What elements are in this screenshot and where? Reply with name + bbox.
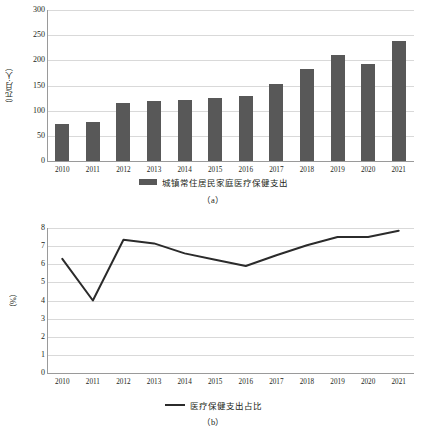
line-series-b <box>0 212 426 403</box>
caption-a: （a） <box>0 193 426 205</box>
y-tick-label: 50 <box>37 132 45 140</box>
y-axis-line <box>47 10 48 162</box>
x-tick-label: 2020 <box>353 166 384 174</box>
x-tick-label: 2015 <box>200 166 231 174</box>
gridline <box>47 10 414 11</box>
figure-page: （元/月·人） 050100150200250300 2010201120122… <box>0 0 426 436</box>
x-tick-label: 2016 <box>231 166 262 174</box>
y-tick-label: 100 <box>33 107 45 115</box>
x-tick-label: 2013 <box>139 166 170 174</box>
y-axis-label-a: （元/月·人） <box>4 10 15 161</box>
x-tick-label: 2014 <box>169 166 200 174</box>
bar <box>269 84 283 161</box>
figure-b-line-chart: （%） 012345678 20102011201220132014201520… <box>0 212 426 436</box>
y-tick-label: 150 <box>33 82 45 90</box>
x-tick-label: 2010 <box>47 166 78 174</box>
x-tick-label: 2019 <box>322 166 353 174</box>
bar <box>392 41 406 161</box>
bar <box>116 103 130 161</box>
legend-label-a: 城镇常住居民家庭医疗保健支出 <box>162 176 288 188</box>
x-tick-label: 2011 <box>78 166 109 174</box>
x-tick-label: 2018 <box>292 378 323 386</box>
y-tick-label: 200 <box>33 56 45 64</box>
x-tick-label: 2014 <box>169 378 200 386</box>
legend-line-swatch-icon <box>165 404 185 406</box>
x-tick-label: 2012 <box>108 166 139 174</box>
gridline <box>47 86 414 87</box>
bar <box>86 122 100 161</box>
x-tick-label: 2019 <box>322 378 353 386</box>
bar <box>331 55 345 161</box>
bar <box>361 64 375 161</box>
bar <box>239 96 253 161</box>
x-tick-label: 2017 <box>261 166 292 174</box>
legend-b: 医疗保健支出占比 <box>0 398 426 411</box>
gridline <box>47 35 414 36</box>
x-tick-label: 2016 <box>231 378 262 386</box>
bar <box>208 98 222 161</box>
x-tick-label: 2020 <box>353 378 384 386</box>
y-axis-ticks-a: 050100150200250300 <box>23 0 45 181</box>
gridline <box>47 60 414 61</box>
gridline <box>47 136 414 137</box>
x-tick-label: 2011 <box>78 378 109 386</box>
data-series-line <box>62 231 398 301</box>
bar <box>55 124 69 161</box>
caption-b: （b） <box>0 415 426 427</box>
bar <box>300 69 314 161</box>
y-tick-label: 0 <box>41 157 45 165</box>
bar <box>178 100 192 161</box>
x-tick-label: 2015 <box>200 378 231 386</box>
x-tick-label: 2021 <box>383 378 414 386</box>
y-tick-label: 250 <box>33 31 45 39</box>
legend-bar-swatch-icon <box>139 179 157 185</box>
x-tick-label: 2018 <box>292 166 323 174</box>
legend-a: 城镇常住居民家庭医疗保健支出 <box>0 176 426 188</box>
x-tick-label: 2017 <box>261 378 292 386</box>
legend-label-b: 医疗保健支出占比 <box>190 399 262 411</box>
bar <box>147 101 161 161</box>
x-tick-label: 2013 <box>139 378 170 386</box>
y-tick-label: 300 <box>33 6 45 14</box>
x-tick-label: 2021 <box>383 166 414 174</box>
gridline <box>47 161 414 162</box>
x-tick-label: 2012 <box>108 378 139 386</box>
figure-a-bar-chart: （元/月·人） 050100150200250300 2010201120122… <box>0 0 426 212</box>
gridline <box>47 111 414 112</box>
x-tick-label: 2010 <box>47 378 78 386</box>
